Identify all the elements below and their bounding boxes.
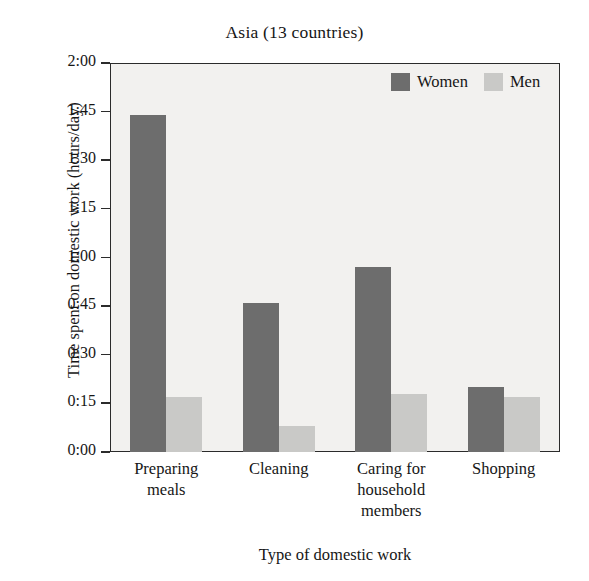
- y-tick-label: 0:00: [40, 441, 96, 459]
- bar-women-0: [130, 115, 166, 452]
- x-tick-label: Caring forhouseholdmembers: [335, 458, 448, 521]
- x-tick-label-line: Shopping: [448, 458, 561, 479]
- y-tick-mark: [101, 62, 110, 64]
- y-tick-mark: [101, 257, 110, 259]
- legend-swatch-icon: [484, 73, 503, 91]
- x-tick-label-line: Cleaning: [223, 458, 336, 479]
- y-tick-mark: [101, 159, 110, 161]
- x-tick-label: Preparingmeals: [110, 458, 223, 500]
- y-tick-label: 1:00: [40, 247, 96, 265]
- chart-legend: WomenMen: [391, 72, 540, 92]
- x-tick-label-line: household: [335, 479, 448, 500]
- y-tick-label: 0:15: [40, 392, 96, 410]
- y-tick-label: 1:15: [40, 198, 96, 216]
- y-tick-label: 2:00: [40, 52, 96, 70]
- y-tick-mark: [101, 354, 110, 356]
- x-tick-label-line: meals: [110, 479, 223, 500]
- legend-label: Women: [417, 72, 468, 92]
- bar-chart-figure: Asia (13 countries) Time spent on domest…: [0, 0, 589, 581]
- x-tick-label-line: members: [335, 500, 448, 521]
- legend-entry-women: Women: [391, 72, 468, 92]
- legend-swatch-icon: [391, 73, 410, 91]
- bar-women-1: [243, 303, 279, 452]
- y-tick-label: 0:30: [40, 344, 96, 362]
- x-axis-label: Type of domestic work: [110, 545, 560, 565]
- legend-entry-men: Men: [484, 72, 540, 92]
- y-tick-mark: [101, 208, 110, 210]
- chart-title: Asia (13 countries): [0, 22, 589, 43]
- bar-men-0: [166, 397, 202, 452]
- bar-women-3: [468, 387, 504, 452]
- x-tick-label-line: Preparing: [110, 458, 223, 479]
- legend-label: Men: [510, 72, 540, 92]
- y-tick-label: 0:45: [40, 295, 96, 313]
- y-tick-label: 1:30: [40, 149, 96, 167]
- bar-men-1: [279, 426, 315, 452]
- x-tick-label-line: Caring for: [335, 458, 448, 479]
- y-tick-mark: [101, 111, 110, 113]
- bar-men-3: [504, 397, 540, 452]
- y-tick-label: 1:45: [40, 101, 96, 119]
- x-tick-label: Shopping: [448, 458, 561, 479]
- bar-women-2: [355, 267, 391, 452]
- y-tick-mark: [101, 402, 110, 404]
- y-tick-mark: [101, 451, 110, 453]
- bar-men-2: [391, 394, 427, 452]
- x-tick-label: Cleaning: [223, 458, 336, 479]
- y-tick-mark: [101, 305, 110, 307]
